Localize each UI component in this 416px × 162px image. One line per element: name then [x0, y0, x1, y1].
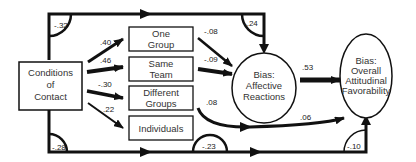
- svg-text:Reactions: Reactions: [243, 91, 285, 102]
- svg-text:Conditions: Conditions: [28, 67, 73, 78]
- affective-to-overall: .53: [300, 63, 340, 80]
- arrow-right-icon: [250, 147, 262, 157]
- conditions-of-contact-node: Conditions of Contact: [19, 62, 82, 110]
- svg-text:Team: Team: [149, 69, 172, 80]
- svg-text:Bias:: Bias:: [253, 69, 274, 80]
- arrow-right-icon: [240, 122, 252, 132]
- svg-text:Individuals: Individuals: [139, 123, 184, 134]
- arrow-right-icon: [140, 147, 152, 157]
- svg-text:Contact: Contact: [34, 91, 67, 102]
- coef-conditions-top: -.32: [54, 21, 68, 30]
- overall-favorability-node: Bias: Overall Attitudinal Favorability: [340, 34, 392, 118]
- coef-one-group: .40: [100, 38, 112, 47]
- same-team-node: Same Team: [129, 57, 193, 81]
- svg-text:Same: Same: [149, 58, 174, 69]
- different-groups-node: Different Groups: [129, 86, 193, 110]
- svg-text:of: of: [47, 79, 55, 90]
- svg-text:Affective: Affective: [246, 80, 282, 91]
- affective-reactions-node: Bias: Affective Reactions: [232, 53, 296, 123]
- coef-same-team: .46: [100, 56, 112, 65]
- coef-bottom-overall: -.10: [347, 142, 361, 151]
- coef-different-groups-overall: .08: [206, 98, 218, 107]
- mediators-to-affective: -.08 -.09: [198, 27, 232, 74]
- coef-one-group-affective: -.08: [204, 27, 218, 36]
- conditions-to-mediators: .40 .46 -.30 .22: [87, 38, 123, 128]
- path-diagram: -.32 -.24 -.28 -.23 -.10 Conditions of C…: [0, 0, 416, 162]
- one-group-node: One Group: [129, 27, 193, 51]
- coef-top-affective: -.24: [244, 19, 258, 28]
- svg-text:One: One: [152, 28, 170, 39]
- coef-same-team-affective: -.09: [204, 55, 218, 64]
- svg-text:Favorability: Favorability: [342, 85, 391, 96]
- coef-individuals: .22: [103, 105, 115, 114]
- individuals-node: Individuals: [129, 116, 193, 140]
- svg-text:Different: Different: [143, 87, 179, 98]
- svg-text:Group: Group: [148, 39, 174, 50]
- svg-text:Groups: Groups: [145, 98, 176, 109]
- coef-bottom-mid: -.23: [202, 142, 216, 151]
- coef-affective-overall: .53: [302, 63, 314, 72]
- bottom-path: -.28 -.23 -.10: [49, 110, 371, 157]
- coef-individuals-overall: .06: [300, 113, 312, 122]
- coef-different-groups: -.30: [98, 80, 112, 89]
- coef-conditions-bottom: -.28: [52, 143, 66, 152]
- arrow-right-icon: [140, 9, 152, 19]
